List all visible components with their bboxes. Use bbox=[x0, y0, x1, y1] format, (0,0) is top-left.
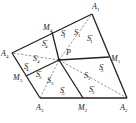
segment-P-M1 bbox=[59, 57, 109, 60]
region-label-S1p: S′1 bbox=[61, 29, 66, 39]
region-label-S1pp: S″1 bbox=[87, 34, 93, 44]
side-A1-A2 bbox=[92, 14, 127, 98]
vertex-label-A1: A1 bbox=[91, 2, 100, 12]
segment-P-M4 bbox=[52, 32, 59, 60]
region-label-S1: S1 bbox=[74, 28, 81, 38]
geometry-figure: A1A2A3A4M1M2M3M4PS′1S1S″1S′2S2S″2S′3S3S″… bbox=[0, 0, 136, 123]
region-label-S2pp: S″2 bbox=[89, 85, 95, 95]
quadrilateral-diagram: A1A2A3A4M1M2M3M4PS′1S1S″1S′2S2S″2S′3S3S″… bbox=[0, 0, 136, 123]
vertex-label-A2: A2 bbox=[119, 103, 128, 113]
region-label-S3p: S′3 bbox=[60, 86, 65, 96]
midpoint-label-M4: M4 bbox=[42, 23, 53, 33]
region-label-S2: S2 bbox=[84, 71, 91, 81]
point-P-dot bbox=[58, 59, 61, 62]
point-label-P: P bbox=[65, 48, 71, 57]
region-label-S4p: S′4 bbox=[24, 62, 29, 72]
midpoint-label-M2: M2 bbox=[77, 103, 88, 113]
vertex-label-A3: A3 bbox=[35, 103, 44, 113]
segment-P-M3 bbox=[26, 60, 59, 76]
midpoint-label-M3: M3 bbox=[12, 73, 23, 83]
midpoint-label-M1: M1 bbox=[110, 54, 121, 64]
region-label-S3pp: S″3 bbox=[36, 70, 42, 80]
vertex-label-A4: A4 bbox=[0, 49, 9, 59]
region-label-S2p: S′2 bbox=[99, 63, 104, 73]
region-label-S4pp: S″4 bbox=[42, 39, 48, 49]
region-label-S3: S3 bbox=[47, 76, 54, 86]
region-label-S4: S4 bbox=[33, 54, 40, 64]
